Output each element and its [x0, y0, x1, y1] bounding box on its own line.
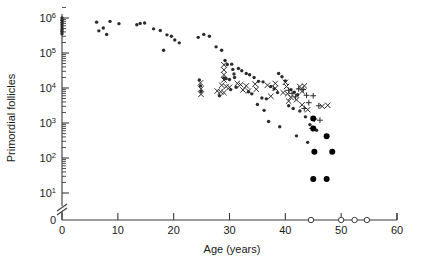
data-point-dot	[138, 22, 141, 25]
data-point-dot	[178, 41, 181, 44]
y-tick-label: 102	[40, 151, 56, 165]
data-point-filled-circle	[310, 115, 316, 121]
x-tick-label: 50	[335, 224, 347, 236]
data-point-x	[265, 83, 270, 88]
data-point-dot	[170, 35, 173, 38]
data-point-dot	[228, 78, 231, 81]
x-tick-label: 10	[112, 224, 124, 236]
data-point-layer	[60, 16, 369, 222]
y-tick-label: 105	[40, 46, 56, 60]
data-point-filled-circle	[310, 125, 316, 131]
data-point-dot	[252, 76, 255, 79]
y-tick-group	[62, 18, 69, 193]
data-point-dot	[223, 59, 226, 62]
x-tick-label: 60	[391, 224, 403, 236]
y-tick-label: 103	[40, 116, 56, 130]
data-point-dot	[152, 27, 155, 30]
data-point-x	[273, 81, 278, 86]
data-point-dot	[280, 75, 283, 78]
data-point-dot	[102, 26, 105, 29]
data-point-dot	[117, 22, 120, 25]
data-point-x	[221, 67, 226, 72]
y-tick-label: 106	[40, 11, 56, 25]
data-point-filled-circle	[310, 176, 316, 182]
data-point-dot	[233, 76, 236, 79]
data-point-filled-circle	[324, 176, 330, 182]
data-point-dot	[108, 20, 111, 23]
data-point-dot	[237, 67, 240, 70]
data-point-dot	[308, 123, 311, 126]
data-point-dot	[173, 38, 176, 41]
data-point-dot	[60, 32, 63, 35]
data-point-dot	[261, 80, 264, 83]
data-point-x	[325, 103, 330, 108]
data-point-dot	[230, 62, 233, 65]
data-point-dot	[296, 93, 299, 96]
data-point-plus	[306, 100, 312, 106]
data-point-dot	[97, 29, 100, 32]
data-point-dot	[276, 91, 279, 94]
data-point-dot	[265, 97, 268, 100]
data-point-dot	[295, 134, 298, 137]
data-point-dot	[214, 45, 217, 48]
data-point-dot	[105, 33, 108, 36]
data-point-dot	[95, 20, 98, 23]
data-point-dot	[159, 29, 162, 32]
y-tick-label: 104	[40, 81, 56, 95]
data-point-filled-circle	[311, 149, 317, 155]
data-point-open-circle	[308, 217, 313, 222]
plot-axes	[57, 14, 397, 220]
data-point-dot	[135, 23, 138, 26]
data-point-dot	[267, 120, 270, 123]
data-point-x	[280, 90, 285, 95]
data-point-dot	[256, 103, 259, 106]
data-point-x	[219, 83, 224, 88]
data-point-dot	[260, 96, 263, 99]
data-point-x	[254, 87, 259, 92]
data-point-filled-circle	[324, 133, 330, 139]
data-point-dot	[165, 33, 168, 36]
data-point-x	[244, 83, 249, 88]
y-axis-label: Primordial follicles	[5, 73, 17, 162]
scatter-plot: 0102030405060 1011021031041051060 Primor…	[0, 0, 426, 263]
data-point-open-circle	[364, 217, 369, 222]
x-tick-label: 40	[279, 224, 291, 236]
data-point-dot	[245, 72, 248, 75]
data-point-x	[302, 83, 307, 88]
data-point-dot	[287, 104, 290, 107]
y-tick-label-group: 1011021031041051060	[40, 11, 56, 227]
x-tick-label-group: 0102030405060	[59, 224, 403, 236]
data-point-x	[252, 81, 257, 86]
data-point-dot	[162, 49, 165, 52]
data-point-dot	[277, 72, 280, 75]
y-zero-label: 0	[50, 214, 56, 226]
data-point-dot	[298, 109, 301, 112]
data-point-dot	[208, 35, 211, 38]
data-point-x	[305, 107, 310, 112]
data-point-dot	[291, 107, 294, 110]
data-point-dot	[262, 109, 265, 112]
data-point-dot	[304, 115, 307, 118]
data-point-plus	[310, 93, 316, 99]
data-point-dot	[231, 68, 234, 71]
data-point-plus	[317, 117, 323, 123]
data-point-open-circle	[338, 217, 343, 222]
data-point-dot	[143, 21, 146, 24]
data-point-x	[240, 87, 245, 92]
data-point-dot	[306, 141, 309, 144]
x-tick-group	[62, 213, 397, 220]
data-point-dot	[240, 69, 243, 72]
data-point-dot	[202, 33, 205, 36]
data-point-x	[268, 94, 273, 99]
data-point-filled-circle	[329, 149, 335, 155]
x-tick-label: 20	[168, 224, 180, 236]
data-point-dot	[248, 73, 251, 76]
x-axis-label: Age (years)	[204, 243, 261, 255]
data-point-dot	[232, 72, 235, 75]
x-tick-label: 30	[223, 224, 235, 236]
y-tick-label: 101	[40, 186, 56, 200]
data-point-open-circle	[352, 217, 357, 222]
data-point-dot	[278, 125, 281, 128]
data-point-x	[294, 97, 299, 102]
figure-container: 0102030405060 1011021031041051060 Primor…	[0, 0, 426, 263]
